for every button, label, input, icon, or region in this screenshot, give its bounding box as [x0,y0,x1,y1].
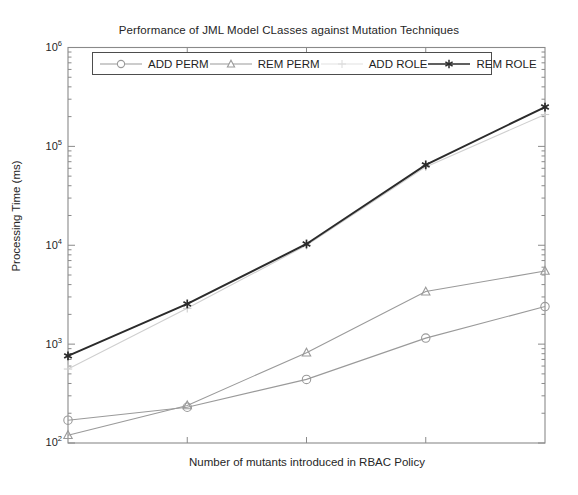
plus-marker-icon [320,57,364,71]
asterisk-marker-icon [422,160,430,169]
triangle-marker-icon [209,57,253,71]
legend-item-rem-perm[interactable]: REM PERM [209,57,320,71]
legend-label-rem-perm: REM PERM [256,58,320,70]
series-layer [64,103,549,439]
figure-canvas: Performance of JML Model CLasses against… [0,0,578,495]
asterisk-marker-icon [541,103,549,112]
asterisk-marker-icon [427,57,471,71]
chart-legend[interactable]: ADD PERM REM PERM ADD ROLE [92,52,492,75]
legend-label-rem-role: REM ROLE [474,58,536,70]
circle-marker-icon [99,57,143,71]
plus-marker-icon [541,110,549,118]
series-rem-role [64,103,549,361]
legend-label-add-role: ADD ROLE [367,58,428,70]
series-add-perm [64,302,549,424]
legend-item-add-perm[interactable]: ADD PERM [99,57,209,71]
legend-label-add-perm: ADD PERM [146,58,209,70]
legend-item-add-role[interactable]: ADD ROLE [320,57,428,71]
legend-item-rem-role[interactable]: REM ROLE [427,57,536,71]
